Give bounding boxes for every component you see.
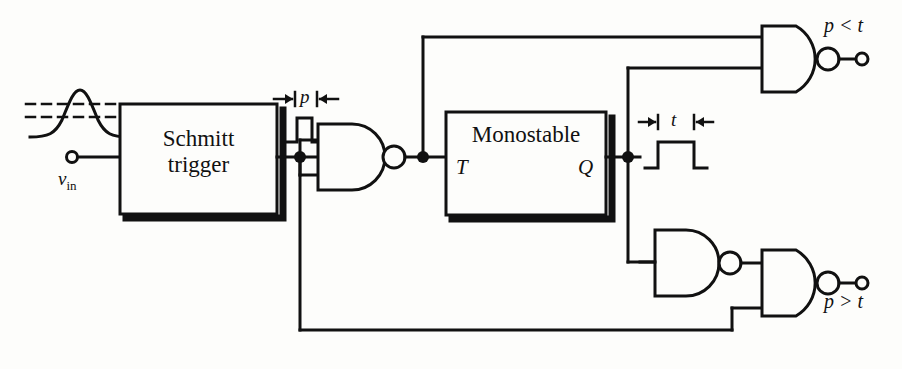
monostable-label-line1: Monostable bbox=[446, 122, 606, 148]
vin-label: vin bbox=[58, 168, 77, 194]
p-less-than-t-output-terminal bbox=[856, 53, 868, 65]
output-p-greater-than-t-label: p > t bbox=[824, 290, 863, 313]
circuit-schematic bbox=[0, 0, 902, 369]
monostable-pin-q-label: Q bbox=[578, 155, 593, 180]
nand-gate-1-bubble bbox=[383, 146, 405, 168]
diagram-canvas: Schmitt trigger Monostable T Q vin p t p… bbox=[0, 0, 902, 369]
schmitt-trigger-label: Schmitt trigger bbox=[120, 126, 277, 179]
pulse-t-label: t bbox=[671, 109, 676, 131]
p-greater-than-t-output-terminal bbox=[856, 277, 868, 289]
pulse-p-label: p bbox=[300, 86, 310, 108]
output-p-less-than-t-label: p < t bbox=[824, 14, 863, 37]
nand-gate-3-shape bbox=[640, 230, 762, 296]
schmitt-trigger-label-line2: trigger bbox=[120, 152, 277, 178]
monostable-pin-t-label: T bbox=[456, 155, 468, 180]
vin-subscript: in bbox=[66, 178, 76, 193]
hysteresis-threshold-lines bbox=[26, 104, 120, 117]
nand-gate-3-bubble bbox=[719, 252, 741, 274]
schmitt-trigger-label-line1: Schmitt bbox=[120, 126, 277, 152]
nand-gate-top-bubble bbox=[817, 48, 839, 70]
input-bell-curve-waveform bbox=[30, 90, 128, 137]
vin-terminal-symbol bbox=[67, 152, 121, 163]
wide-pulse-t-waveform bbox=[645, 142, 707, 168]
monostable-label: Monostable bbox=[446, 122, 606, 148]
